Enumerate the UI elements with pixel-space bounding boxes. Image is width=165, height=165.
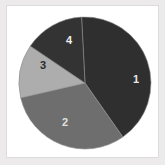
screenshot-root: 1 2 3 4 [0,0,165,165]
chart-panel: 1 2 3 4 [6,5,159,158]
pie-chart-svg [7,6,159,158]
pie-chart[interactable]: 1 2 3 4 [7,6,159,158]
